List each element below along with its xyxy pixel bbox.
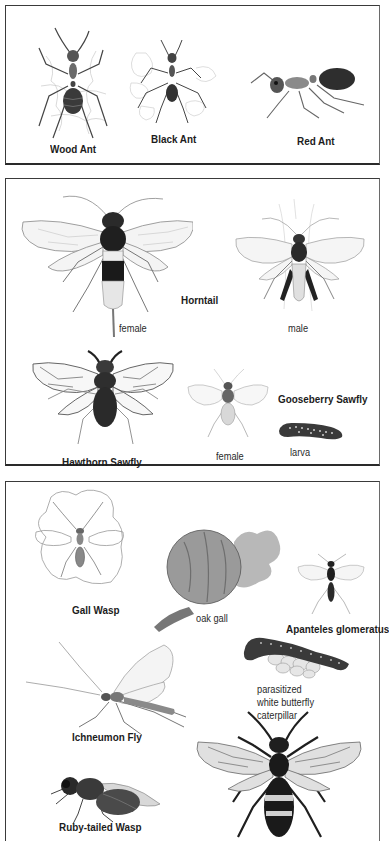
label-oak-gall: oak gall	[196, 612, 228, 624]
label-wood-ant: Wood Ant	[50, 143, 96, 155]
gall-wasp-illustration	[31, 487, 131, 587]
panel-ants: Wood Ant Black Ant	[5, 5, 380, 165]
label-black-ant: Black Ant	[151, 133, 196, 145]
label-horntail-male: male	[288, 322, 308, 334]
ichneumon-fly-illustration	[24, 637, 194, 737]
panel-wasps: Gall Wasp oak gall Apanteles glomeratus	[5, 481, 380, 841]
label-horntail: Horntail	[181, 294, 218, 306]
label-ichneumon-fly: Ichneumon Fly	[72, 731, 142, 743]
label-ruby-tailed-wasp: Ruby-tailed Wasp	[59, 821, 142, 833]
label-red-ant: Red Ant	[297, 135, 335, 147]
panel-sawflies: female Horntail male	[5, 178, 380, 466]
hawthorn-sawfly-illustration	[28, 349, 178, 449]
ruby-tailed-wasp-illustration	[48, 764, 163, 829]
apanteles-glomeratus-illustration	[296, 552, 366, 617]
black-ant-illustration	[126, 38, 221, 128]
wood-ant-illustration	[31, 26, 116, 141]
label-gooseberry-sawfly: Gooseberry Sawfly	[278, 393, 368, 405]
gooseberry-larva-illustration	[276, 419, 346, 443]
label-gall-wasp: Gall Wasp	[72, 604, 119, 616]
red-ant-illustration	[249, 63, 369, 123]
parasitized-caterpillar-illustration	[241, 634, 353, 679]
label-horntail-female: female	[119, 322, 147, 334]
horntail-female-illustration	[18, 187, 193, 337]
label-gooseberry-female: female	[216, 450, 244, 462]
horntail-male-illustration	[234, 199, 369, 319]
label-larva: larva	[290, 446, 310, 458]
gooseberry-sawfly-female-illustration	[186, 369, 271, 441]
wasp-illustration	[193, 707, 368, 842]
label-line-1: parasitized	[257, 683, 302, 696]
label-hawthorn-sawfly: Hawthorn Sawfly	[62, 456, 142, 468]
